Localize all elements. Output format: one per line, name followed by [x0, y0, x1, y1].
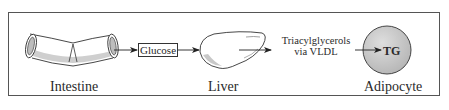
- glucose-label: Glucose: [140, 44, 176, 56]
- intestine-icon: [24, 33, 120, 66]
- glucose-node: Glucose: [138, 43, 178, 57]
- via-vldl-label: via VLDL: [270, 46, 362, 57]
- adipocyte-label: Adipocyte: [364, 79, 422, 95]
- tg-label: TG: [383, 44, 400, 59]
- intestine-label: Intestine: [50, 79, 98, 95]
- triacylglycerols-label: Triacylglycerols: [270, 35, 362, 46]
- triacylglycerols-node: Triacylglycerols via VLDL: [270, 35, 362, 57]
- liver-label: Liver: [208, 79, 238, 95]
